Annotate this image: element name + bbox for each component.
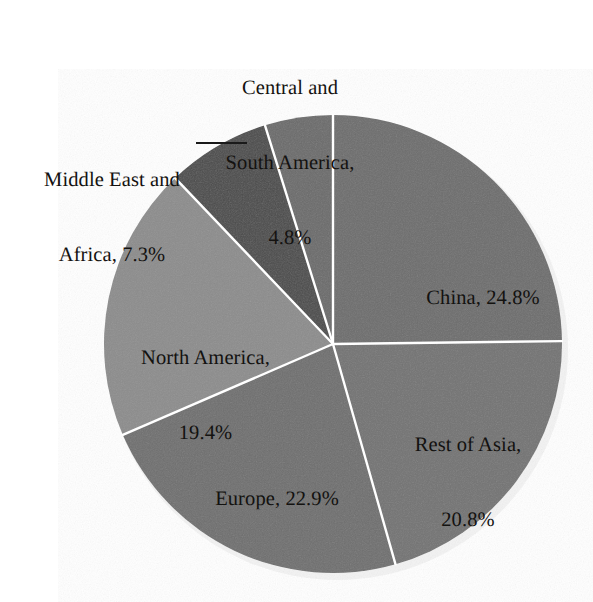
slice-label-central-and-south-america: Central and South America, 4.8% xyxy=(190,26,390,301)
slice-label-middle-east-and-africa: Middle East and Africa, 7.3% xyxy=(22,118,202,318)
slice-label-north-america-line2: 19.4% xyxy=(113,421,298,446)
slice-label-rest-of-asia-line1: Rest of Asia, xyxy=(378,433,558,458)
pie-chart-figure: China, 24.8% Rest of Asia, 20.8% Europe,… xyxy=(0,0,593,602)
slice-label-china: China, 24.8% xyxy=(393,236,573,361)
slice-label-central-and-south-america-line1: Central and xyxy=(190,76,390,101)
slice-label-middle-east-and-africa-line2: Africa, 7.3% xyxy=(22,243,202,268)
slice-label-rest-of-asia-line2: 20.8% xyxy=(378,508,558,533)
slice-label-north-america-line1: North America, xyxy=(113,346,298,371)
slice-label-north-america: North America, 19.4% xyxy=(113,296,298,496)
slice-label-central-and-south-america-line3: 4.8% xyxy=(190,226,390,251)
slice-label-central-and-south-america-line2: South America, xyxy=(190,151,390,176)
slice-label-china-line1: China, 24.8% xyxy=(393,286,573,311)
slice-label-rest-of-asia: Rest of Asia, 20.8% xyxy=(378,383,558,583)
slice-label-middle-east-and-africa-line1: Middle East and xyxy=(22,168,202,193)
